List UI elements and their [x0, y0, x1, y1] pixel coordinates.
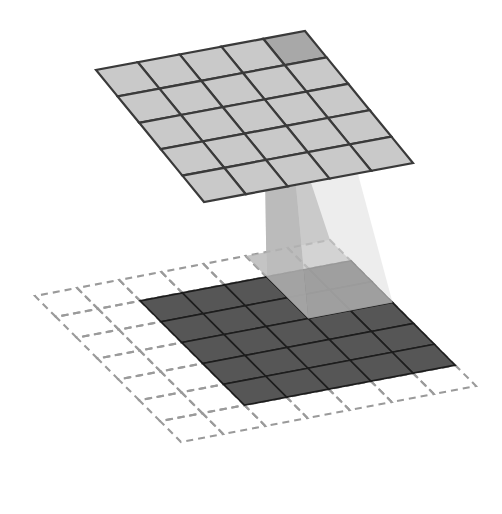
dashed-grid-cell [77, 280, 140, 309]
diagram-canvas [0, 0, 502, 514]
dashed-grid-cell [77, 330, 140, 359]
upper-feature-grid [96, 31, 413, 202]
projection-diagram [0, 0, 502, 514]
dashed-grid-cell [98, 351, 161, 380]
dashed-grid-cell [160, 413, 223, 442]
dashed-grid-cell [139, 392, 202, 421]
dashed-grid-cell [202, 405, 265, 434]
dashed-grid-cell [118, 371, 181, 400]
dashed-grid-cell [35, 288, 98, 317]
dashed-grid-cell [56, 309, 119, 338]
